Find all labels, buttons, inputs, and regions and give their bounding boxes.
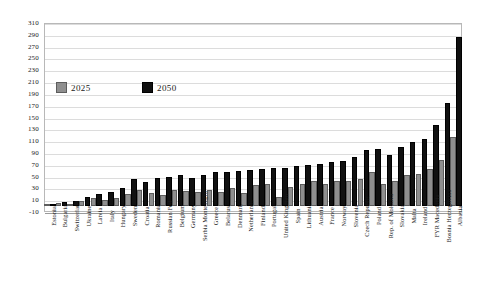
bar-group xyxy=(137,23,149,212)
x-axis-label-wrap: Belarus xyxy=(218,214,230,297)
bar-2025 xyxy=(230,188,235,206)
x-axis-label-wrap: Spain xyxy=(288,214,300,297)
y-axis-tick-label: 150 xyxy=(28,114,39,122)
legend-swatch-icon xyxy=(56,82,67,93)
x-axis-label-wrap: Hungary xyxy=(114,214,126,297)
x-axis-label-wrap: Germany xyxy=(183,214,195,297)
bar-group xyxy=(404,23,416,212)
bar-group xyxy=(358,23,370,212)
bar-group xyxy=(334,23,346,212)
x-axis-label-wrap: Denmark xyxy=(230,214,242,297)
bar-2050 xyxy=(456,37,461,207)
chart-legend: 20252050 xyxy=(56,82,206,98)
bar-group xyxy=(218,23,230,212)
x-axis-label-wrap: Sweden xyxy=(125,214,137,297)
y-axis-tick-label: 190 xyxy=(28,90,39,98)
bar-group xyxy=(427,23,439,212)
x-axis-label-wrap: Switzerland xyxy=(67,214,79,297)
bar-group xyxy=(253,23,265,212)
x-axis-label-wrap: Estonia xyxy=(44,214,56,297)
bar-2025 xyxy=(44,204,49,206)
x-axis-tick-label: Albania xyxy=(456,206,463,227)
bar-group xyxy=(56,23,68,212)
y-axis-tick-label: 90 xyxy=(32,149,39,157)
x-axis-label-wrap: Bosnia Herzegovina xyxy=(439,214,451,297)
bar-group xyxy=(450,23,462,212)
bars-layer xyxy=(44,23,462,212)
x-axis-label-wrap: Austria xyxy=(311,214,323,297)
bar-2025 xyxy=(125,194,130,206)
x-axis-label-wrap: Ireland xyxy=(416,214,428,297)
legend-swatch-icon xyxy=(142,82,153,93)
bar-2025 xyxy=(427,169,432,206)
x-axis-label-wrap: Greece xyxy=(207,214,219,297)
x-axis-label-wrap: Croatia xyxy=(137,214,149,297)
x-axis-label-wrap: France xyxy=(323,214,335,297)
bar-group xyxy=(241,23,253,212)
bar-group xyxy=(102,23,114,212)
legend-label: 2025 xyxy=(71,83,91,93)
x-axis-label-wrap: Ukraine xyxy=(79,214,91,297)
bar-group xyxy=(265,23,277,212)
bar-2025 xyxy=(323,184,328,206)
x-axis-labels: EstoniaBulgariaSwitzerlandUkraineLatviaI… xyxy=(44,214,462,297)
x-axis-label-wrap: Latvia xyxy=(90,214,102,297)
x-axis-label-wrap: Slovenia xyxy=(346,214,358,297)
x-axis-label-wrap: Serbia Montenegro xyxy=(195,214,207,297)
bar-2025 xyxy=(218,192,223,206)
bar-group xyxy=(114,23,126,212)
x-axis-label-wrap: Finland xyxy=(253,214,265,297)
x-axis-label-wrap: Italy xyxy=(102,214,114,297)
x-axis-label-wrap: Bulgaria xyxy=(56,214,68,297)
bar-group xyxy=(299,23,311,212)
bar-group xyxy=(230,23,242,212)
x-axis-label-wrap: United Kingdom xyxy=(276,214,288,297)
legend-item-2050: 2050 xyxy=(142,82,177,93)
x-axis-label-wrap: Portugal xyxy=(265,214,277,297)
bar-group xyxy=(90,23,102,212)
bar-group xyxy=(276,23,288,212)
bar-group xyxy=(288,23,300,212)
bar-2025 xyxy=(346,181,351,206)
bar-group xyxy=(67,23,79,212)
bar-2025 xyxy=(102,200,107,206)
legend-item-2025: 2025 xyxy=(56,82,91,93)
bar-group xyxy=(44,23,56,212)
bar-group xyxy=(79,23,91,212)
x-axis-label-wrap: Russian Fed. xyxy=(160,214,172,297)
y-axis-tick-label: 310 xyxy=(28,19,39,27)
bar-2025 xyxy=(404,175,409,206)
y-axis-tick-label: 210 xyxy=(28,78,39,86)
bar-2025 xyxy=(160,195,165,206)
bar-group xyxy=(369,23,381,212)
y-axis-tick-label: 250 xyxy=(28,54,39,62)
legend-label: 2050 xyxy=(157,83,177,93)
bar-group xyxy=(416,23,428,212)
bar-group xyxy=(346,23,358,212)
bar-2025 xyxy=(67,204,72,206)
x-axis-label-wrap: Romania xyxy=(149,214,161,297)
y-axis-tick-label: 30 xyxy=(32,184,39,192)
x-axis-label-wrap: Czech Republic xyxy=(358,214,370,297)
bar-group xyxy=(311,23,323,212)
bar-group xyxy=(381,23,393,212)
bar-group xyxy=(439,23,451,212)
y-axis-tick-label: 50 xyxy=(32,173,39,181)
x-axis-label-wrap: Lithuania xyxy=(299,214,311,297)
y-axis-tick-label: -10 xyxy=(29,208,39,216)
y-axis-tick-label: 230 xyxy=(28,66,39,74)
y-axis-tick-label: 70 xyxy=(32,161,39,169)
bar-group xyxy=(207,23,219,212)
x-axis-label-wrap: Rep. of Moldova xyxy=(381,214,393,297)
x-axis-label-wrap: Malta xyxy=(404,214,416,297)
bar-group xyxy=(149,23,161,212)
bar-group xyxy=(323,23,335,212)
y-axis: 3102902702502302101901701501301109070503… xyxy=(0,23,42,212)
bar-group xyxy=(172,23,184,212)
x-axis-label-wrap: Norway xyxy=(334,214,346,297)
bar-2025 xyxy=(276,197,281,206)
y-axis-tick-label: 10 xyxy=(32,196,39,204)
bar-group xyxy=(392,23,404,212)
y-axis-tick-label: 110 xyxy=(28,137,39,145)
x-axis-label-wrap: Albania xyxy=(450,214,462,297)
